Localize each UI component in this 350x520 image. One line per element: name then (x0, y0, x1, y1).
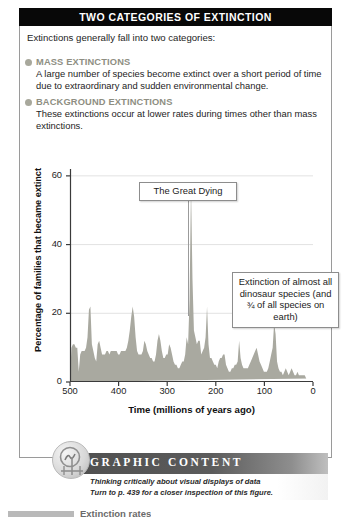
category-list: MASS EXTINCTIONS A large number of speci… (25, 57, 325, 137)
intro-text: Extinctions generally fall into two cate… (27, 32, 323, 43)
category-background-extinctions: BACKGROUND EXTINCTIONS These extinctions… (25, 97, 325, 131)
graph-circle-icon (52, 441, 90, 479)
callout-dinosaur: Extinction of almost all dinosaur specie… (232, 272, 339, 328)
category-heading-row: MASS EXTINCTIONS (25, 57, 325, 67)
callout-great-dying: The Great Dying (139, 182, 237, 201)
chart-x-tick-300: 300 (152, 386, 182, 396)
category-mass-extinctions: MASS EXTINCTIONS A large number of speci… (25, 57, 325, 91)
callout-leader-line-great-dying (188, 198, 189, 316)
chart-x-tick-200: 200 (201, 386, 231, 396)
category-body: A large number of species become extinct… (25, 68, 325, 91)
graphic-content-title: GRAPHIC CONTENT (90, 456, 243, 468)
chart-y-tick-0: 0 (36, 376, 62, 386)
category-body: These extinctions occur at lower rates d… (25, 108, 325, 131)
chart-y-tick-20: 20 (36, 307, 62, 317)
chart-y-tick-40: 40 (36, 239, 62, 249)
chart-y-axis-label: Percentage of families that became extin… (33, 160, 43, 360)
graphic-content-subtitle-line-1: Thinking critically about visual display… (90, 477, 328, 488)
page-title: TWO CATEGORIES OF EXTINCTION (79, 11, 272, 23)
filled-circle-bullet-icon (25, 59, 32, 66)
bottom-decorative-strip (8, 511, 74, 517)
figure-title-bar: TWO CATEGORIES OF EXTINCTION (19, 8, 332, 26)
filled-circle-bullet-icon (25, 99, 32, 106)
chart-x-axis-label: Time (millions of years ago) (70, 404, 313, 415)
category-title: MASS EXTINCTIONS (36, 57, 130, 67)
graphic-content-subtitle-line-2: Turn to p. 439 for a closer inspection o… (90, 488, 328, 499)
chart-y-tick-60: 60 (36, 170, 62, 180)
graphic-content-banner: GRAPHIC CONTENT (70, 453, 328, 474)
figure-page: TWO CATEGORIES OF EXTINCTION Extinctions… (0, 0, 350, 520)
bottom-caption: Extinction rates (80, 508, 151, 519)
chart-x-tick-0: 0 (298, 386, 328, 396)
category-heading-row: BACKGROUND EXTINCTIONS (25, 97, 325, 107)
chart-x-tick-400: 400 (104, 386, 134, 396)
chart-x-tick-100: 100 (249, 386, 279, 396)
graphic-content-subtitle: Thinking critically about visual display… (70, 474, 328, 500)
chart-x-tick-500: 500 (55, 386, 85, 396)
category-title: BACKGROUND EXTINCTIONS (36, 97, 173, 107)
